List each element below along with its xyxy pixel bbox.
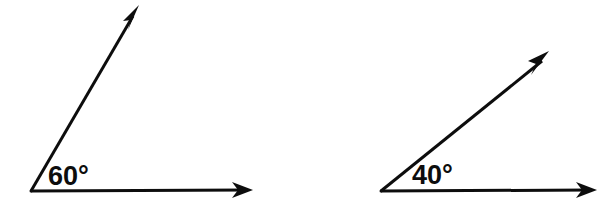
angle-diagram-60: 60° (30, 5, 254, 198)
angle-40-measure-label: 40° (412, 160, 453, 190)
angle-60-measure-label: 60° (48, 161, 89, 191)
angle-60-vertex-point (30, 190, 33, 193)
angle-figure-canvas: 60° 40° (0, 0, 608, 208)
angle-40-horizontal-ray-line (381, 190, 590, 191)
angle-diagrams-svg: 60° 40° (0, 0, 608, 208)
angle-diagram-40: 40° (380, 51, 598, 198)
angle-40-slanted-ray-line (381, 61, 542, 191)
angle-40-vertex-point (380, 190, 383, 193)
